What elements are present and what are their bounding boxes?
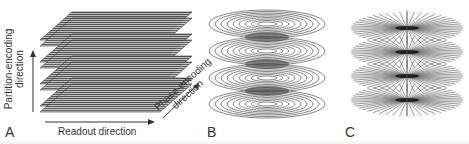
panel-letter-b: B [207,124,216,140]
partition-encoding-label: Partition-encoding direction [3,19,25,119]
cropped-caption-remnant [0,139,469,144]
readout-arrow-icon [45,119,155,125]
partition-arrow-icon [30,50,36,112]
panel-b: B [205,0,330,144]
panel-letter-c: C [345,124,355,140]
cartesian-stack-diagram [0,0,200,144]
spiral-stack-diagram [205,0,330,144]
radial-stack-diagram [345,0,469,144]
panel-c: C [345,0,469,144]
panel-a: Partition-encoding direction Readout dir… [0,0,200,144]
panel-letter-a: A [5,124,14,140]
readout-direction-label: Readout direction [58,126,136,137]
